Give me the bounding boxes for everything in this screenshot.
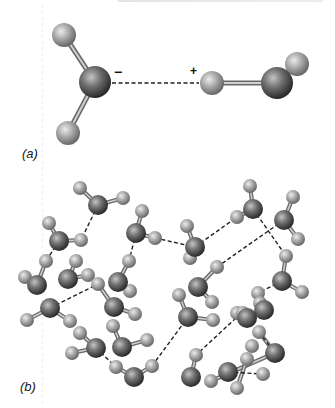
oxygen-atom [218,362,238,382]
hydrogen-atom [243,179,257,193]
oxygen-atom [237,308,257,328]
oxygen-atom [40,298,60,318]
oxygen-atom [27,275,47,295]
hydrogen-atom [39,254,53,268]
hydrogen-atom [74,233,88,247]
positive-charge-label: + [190,64,197,78]
oxygen-atom [124,367,144,387]
hydrogen-atom [73,181,87,195]
hydrogen-atom [140,333,154,347]
hydrogen-atom [286,190,300,204]
oxygen-atom [272,271,292,291]
hydrogen-atom [256,367,270,381]
oxygen-atom [112,337,132,357]
oxygen-atom [261,67,293,99]
hydrogen-atom [65,346,79,360]
hydrogen-atom [135,204,149,218]
oxygen-atom [243,199,263,219]
oxygen-atom [274,210,294,230]
hydrogen-atom [109,360,123,374]
negative-charge-label: − [114,64,122,80]
oxygen-atom [188,277,208,297]
oxygen-atom [58,269,78,289]
hydrogen-atom [245,339,259,353]
oxygen-atom [88,195,108,215]
hydrogen-atom [20,313,34,327]
oxygen-atom [79,66,111,98]
oxygen-atom [126,223,146,243]
hydrogen-bond [217,220,284,267]
hydrogen-atom [189,348,203,362]
hydrogen-atom [56,121,80,145]
hydrogen-atom [279,249,293,263]
atoms [52,23,309,145]
panel-b-label: (b) [20,379,36,394]
hydrogen-bonding-figure [0,0,335,408]
hydrogen-atom [291,232,305,246]
hydrogen-atom [204,374,218,388]
oxygen-atom [185,237,205,257]
hydrogen-atom [148,231,162,245]
hydrogen-atom [73,326,87,340]
hydrogen-atom [200,71,224,95]
hydrogen-atom [91,277,105,291]
hydrogen-atom [252,325,266,339]
hydrogen-atom [145,359,159,373]
hydrogen-atom [172,288,186,302]
hydrogen-atom [63,314,77,328]
hydrogen-atom [240,352,254,366]
hydrogen-atom [106,319,120,333]
hydrogen-atom [210,260,224,274]
hydrogen-atom [230,210,244,224]
oxygen-atom [265,343,285,363]
oxygen-atom [181,367,201,387]
hydrogen-atom [122,254,136,268]
hydrogen-atom [206,313,220,327]
hydrogen-atom [205,295,219,309]
hydrogen-atom [69,254,83,268]
panel-a-label: (a) [22,146,38,161]
hydrogen-atom [180,219,194,233]
oxygen-atom [178,307,198,327]
oxygen-atom [254,300,274,320]
atoms [18,179,309,395]
oxygen-atom [49,231,69,251]
hydrogen-atom [295,285,309,299]
hydrogen-atom [116,191,130,205]
hydrogen-atom [42,216,56,230]
hydrogen-atom [230,381,244,395]
oxygen-atom [108,272,128,292]
oxygen-atom [86,338,106,358]
hydrogen-atom [52,23,76,47]
panel-b-hbond-network [18,179,309,395]
panel-b-label-text: (b) [20,379,36,394]
hydrogen-atom [128,307,142,321]
panel-a-label-text: (a) [22,146,38,161]
oxygen-atom [104,297,124,317]
panel-a-single-hbond [52,23,309,145]
